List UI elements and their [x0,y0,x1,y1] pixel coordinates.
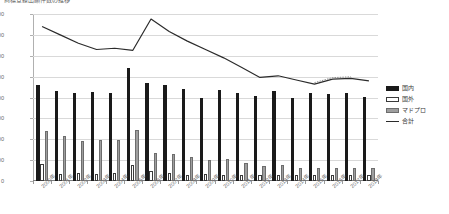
bar-overseas[interactable] [331,175,334,181]
y-axis-tick-mark [30,160,33,161]
bar-overseas[interactable] [204,174,207,181]
x-axis-tick-mark [233,181,234,184]
legend-swatch-total-icon [386,119,399,124]
gridline [33,56,378,57]
legend-swatch-madpro-icon [386,108,399,113]
total-line-dotted-segment [314,77,350,83]
y-axis-tick-label: 25,000 [0,74,4,80]
y-axis-tick-mark [30,14,33,15]
bar-domestic[interactable] [363,97,366,181]
bar-madpro[interactable] [45,131,48,181]
y-axis-tick-label: 40,000 [0,11,4,17]
x-axis-tick-mark [287,181,288,184]
chart-title: 商標登録出願件数の推移 [4,0,70,4]
bar-domestic[interactable] [218,90,221,181]
x-axis-tick-mark [360,181,361,184]
bar-madpro[interactable] [99,140,102,181]
legend-swatch-domestic-icon [386,86,399,91]
bar-overseas[interactable] [40,164,43,181]
x-axis-tick-mark [142,181,143,184]
plot-area: 05,00010,00015,00020,00025,00030,00035,0… [33,14,378,181]
chart-container: 商標登録出願件数の推移 05,00010,00015,00020,00025,0… [0,0,449,214]
legend-item-madpro[interactable]: マドプロ [386,105,448,116]
bar-madpro[interactable] [63,136,66,181]
y-axis-tick-mark [30,98,33,99]
bar-domestic[interactable] [55,91,58,181]
y-axis-tick-mark [30,77,33,78]
y-axis-tick-label: 35,000 [0,32,4,38]
y-axis-tick-mark [30,118,33,119]
bar-domestic[interactable] [36,85,39,181]
x-axis-tick-mark [196,181,197,184]
legend-label-madpro: マドプロ [402,107,426,114]
bar-domestic[interactable] [73,93,76,182]
legend-item-total[interactable]: 合計 [386,116,448,127]
x-axis-tick-mark [342,181,343,184]
bar-domestic[interactable] [291,98,294,181]
bar-overseas[interactable] [95,174,98,181]
legend-label-total: 合計 [402,118,414,125]
gridline [33,77,378,78]
x-axis-tick-mark [160,181,161,184]
bar-overseas[interactable] [349,175,352,181]
total-line-path [42,19,369,84]
x-axis-tick-mark [51,181,52,184]
y-axis-tick-label: 5,000 [0,157,4,163]
bar-madpro[interactable] [135,130,138,181]
bar-domestic[interactable] [327,94,330,181]
bar-domestic[interactable] [91,92,94,181]
x-axis-tick-mark [106,181,107,184]
y-axis-tick-label: 15,000 [0,115,4,121]
bar-domestic[interactable] [254,96,257,181]
legend-swatch-overseas-icon [386,97,399,102]
y-axis-tick-mark [30,35,33,36]
bar-overseas[interactable] [222,175,225,181]
x-axis-tick-mark [305,181,306,184]
bar-domestic[interactable] [182,89,185,181]
bar-domestic[interactable] [109,93,112,181]
chart-legend: 国内 国外 マドプロ 合計 [386,83,448,127]
y-axis-tick-label: 30,000 [0,53,4,59]
y-axis-tick-label: 0 [1,178,4,184]
bar-domestic[interactable] [272,91,275,181]
x-axis-tick-mark [215,181,216,184]
bar-domestic[interactable] [127,68,130,181]
legend-item-domestic[interactable]: 国内 [386,83,448,94]
x-axis-tick-mark [69,181,70,184]
bar-domestic[interactable] [236,93,239,181]
bar-domestic[interactable] [345,93,348,182]
bar-madpro[interactable] [81,141,84,181]
gridline [33,35,378,36]
x-axis-tick-mark [378,181,379,184]
bar-domestic[interactable] [163,85,166,181]
x-axis-tick-mark [269,181,270,184]
bar-madpro[interactable] [117,140,120,181]
bar-domestic[interactable] [145,83,148,181]
x-axis-tick-mark [251,181,252,184]
legend-label-domestic: 国内 [402,85,414,92]
bar-domestic[interactable] [309,93,312,181]
y-axis-tick-mark [30,56,33,57]
bar-overseas[interactable] [113,173,116,181]
legend-label-overseas: 国外 [402,96,414,103]
legend-item-overseas[interactable]: 国外 [386,94,448,105]
x-axis-tick-mark [178,181,179,184]
y-axis-tick-label: 20,000 [0,95,4,101]
x-axis-tick-mark [87,181,88,184]
x-axis-tick-mark [124,181,125,184]
bar-overseas[interactable] [131,165,134,181]
bar-overseas[interactable] [240,175,243,181]
bar-overseas[interactable] [149,171,152,181]
y-axis-tick-label: 10,000 [0,136,4,142]
bar-domestic[interactable] [200,98,203,182]
x-axis-tick-mark [33,181,34,184]
y-axis-tick-mark [30,139,33,140]
x-axis-tick-mark [324,181,325,184]
gridline [33,14,378,15]
